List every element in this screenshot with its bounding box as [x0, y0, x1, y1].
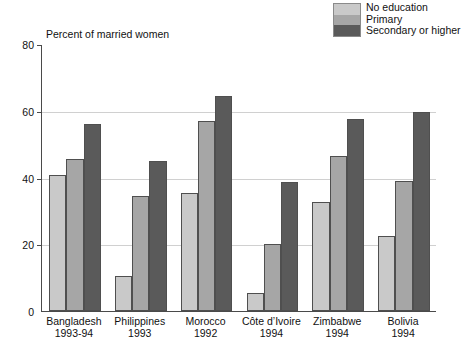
bar — [149, 161, 166, 311]
bar — [115, 276, 132, 311]
legend-label-no-education: No education — [366, 2, 461, 14]
bar — [281, 182, 298, 311]
y-tick-label-60: 60 — [22, 106, 34, 118]
bar — [181, 193, 198, 311]
y-tick-mark-20 — [37, 245, 41, 246]
category-label: Côte d’Ivoire1994 — [239, 316, 305, 340]
category-year: 1992 — [173, 328, 239, 340]
bar — [395, 181, 412, 311]
bar — [312, 202, 329, 311]
bar — [84, 124, 101, 311]
category-label: Philippines1993 — [107, 316, 173, 340]
legend-swatch-no-education — [334, 4, 360, 15]
category-year: 1994 — [239, 328, 305, 340]
y-tick-mark-80 — [37, 45, 41, 46]
gridline-60 — [42, 112, 436, 113]
category-year: 1994 — [370, 328, 436, 340]
bar — [378, 236, 395, 311]
category-year: 1993-94 — [41, 328, 107, 340]
bar — [347, 119, 364, 311]
category-label: Zimbabwe1994 — [304, 316, 370, 340]
gridline-20 — [42, 245, 436, 246]
legend-swatch-stack — [333, 3, 361, 37]
bar — [247, 293, 264, 311]
legend-label-list: No education Primary Secondary or higher — [366, 2, 461, 37]
bar — [132, 196, 149, 311]
legend-swatch-secondary-or-higher — [334, 25, 360, 36]
bar — [215, 96, 232, 311]
category-year: 1993 — [107, 328, 173, 340]
category-label: Morocco1992 — [173, 316, 239, 340]
bar — [49, 175, 66, 311]
category-label: Bangladesh1993-94 — [41, 316, 107, 340]
y-tick-label-80: 80 — [22, 39, 34, 51]
bar — [66, 159, 83, 311]
legend-swatch-primary — [334, 15, 360, 26]
bar — [330, 156, 347, 311]
plot-area — [41, 45, 436, 312]
chart-legend: No education Primary Secondary or higher — [333, 2, 457, 38]
bar — [264, 244, 281, 311]
bar — [198, 121, 215, 311]
y-tick-label-20: 20 — [22, 239, 34, 251]
y-tick-mark-60 — [37, 112, 41, 113]
chart-axis-title: Percent of married women — [46, 28, 169, 40]
legend-label-secondary-or-higher: Secondary or higher — [366, 25, 461, 37]
y-tick-mark-40 — [37, 179, 41, 180]
y-tick-label-0: 0 — [28, 306, 34, 318]
category-label: Bolivia1994 — [370, 316, 436, 340]
gridline-40 — [42, 179, 436, 180]
category-year: 1994 — [304, 328, 370, 340]
bar — [413, 112, 430, 311]
y-tick-label-40: 40 — [22, 173, 34, 185]
